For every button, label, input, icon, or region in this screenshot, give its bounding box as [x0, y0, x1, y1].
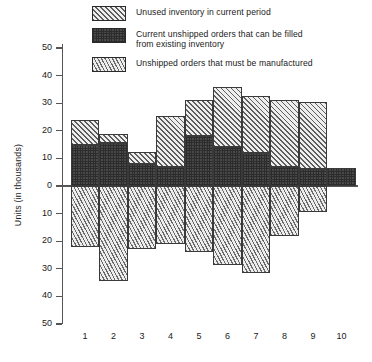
- bar-segment-unused-inventory: [213, 87, 242, 148]
- x-axis-tick-label: 1: [72, 331, 98, 341]
- bar-segment-unused-inventory: [299, 102, 328, 170]
- x-axis-tick-label: 10: [329, 331, 355, 341]
- bar-segment-current-unshipped-filled: [213, 147, 242, 186]
- bar-segment-current-unshipped-filled: [99, 143, 128, 186]
- x-axis-tick-label: 2: [101, 331, 127, 341]
- bar-segment-unshipped-manufactured: [299, 186, 328, 212]
- bar-segment-current-unshipped-filled: [299, 169, 328, 186]
- bar-segment-unused-inventory: [185, 100, 214, 136]
- bar-segment-unshipped-manufactured: [128, 186, 157, 249]
- x-axis-tick-label: 6: [215, 331, 241, 341]
- bar-segment-current-unshipped-filled: [327, 168, 356, 186]
- bar-segment-current-unshipped-filled: [128, 164, 157, 186]
- bar-segment-unshipped-manufactured: [242, 186, 271, 273]
- bar-segment-unused-inventory: [242, 96, 271, 153]
- bar-segment-unused-inventory: [71, 120, 100, 145]
- x-axis-tick-label: 8: [272, 331, 298, 341]
- bar-segment-unshipped-manufactured: [99, 186, 128, 281]
- bar-segment-unshipped-manufactured: [270, 186, 299, 236]
- bar-segment-unshipped-manufactured: [213, 186, 242, 265]
- x-axis-tick-label: 3: [129, 331, 155, 341]
- bar-segment-current-unshipped-filled: [156, 167, 185, 186]
- bar-segment-current-unshipped-filled: [242, 153, 271, 186]
- bar-segment-current-unshipped-filled: [71, 145, 100, 186]
- bar-segment-current-unshipped-filled: [185, 136, 214, 186]
- bar-series-group: [0, 0, 372, 362]
- chart-container: Unused inventory in current period Curre…: [0, 0, 372, 362]
- plot-area: Units (in thousands) 5040302010010203040…: [0, 0, 372, 362]
- x-axis-tick-label: 9: [300, 331, 326, 341]
- bar-segment-unused-inventory: [99, 134, 128, 144]
- bar-segment-current-unshipped-filled: [270, 167, 299, 186]
- bar-segment-unused-inventory: [156, 116, 185, 167]
- bar-segment-unused-inventory: [128, 152, 157, 164]
- bar-segment-unshipped-manufactured: [71, 186, 100, 247]
- bar-segment-unshipped-manufactured: [156, 186, 185, 244]
- bar-segment-unshipped-manufactured: [185, 186, 214, 252]
- x-axis-tick-label: 5: [186, 331, 212, 341]
- bar-segment-unused-inventory: [270, 100, 299, 166]
- x-axis-tick-label: 7: [243, 331, 269, 341]
- x-axis-tick-label: 4: [158, 331, 184, 341]
